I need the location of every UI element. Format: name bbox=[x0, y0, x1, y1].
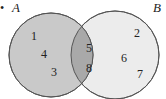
element-b-7: 7 bbox=[137, 67, 143, 81]
element-ab-8: 8 bbox=[86, 61, 92, 75]
set-a-label: A bbox=[11, 0, 20, 15]
element-a-3: 3 bbox=[51, 65, 57, 79]
element-a-1: 1 bbox=[31, 29, 37, 43]
venn-diagram: • A B 1 4 3 5 8 2 6 7 bbox=[0, 0, 166, 99]
set-b-label: B bbox=[153, 0, 161, 15]
element-ab-5: 5 bbox=[86, 41, 92, 55]
element-b-6: 6 bbox=[121, 51, 127, 65]
element-a-4: 4 bbox=[41, 47, 47, 61]
marker-dot: • bbox=[0, 1, 4, 15]
element-b-2: 2 bbox=[134, 26, 140, 40]
